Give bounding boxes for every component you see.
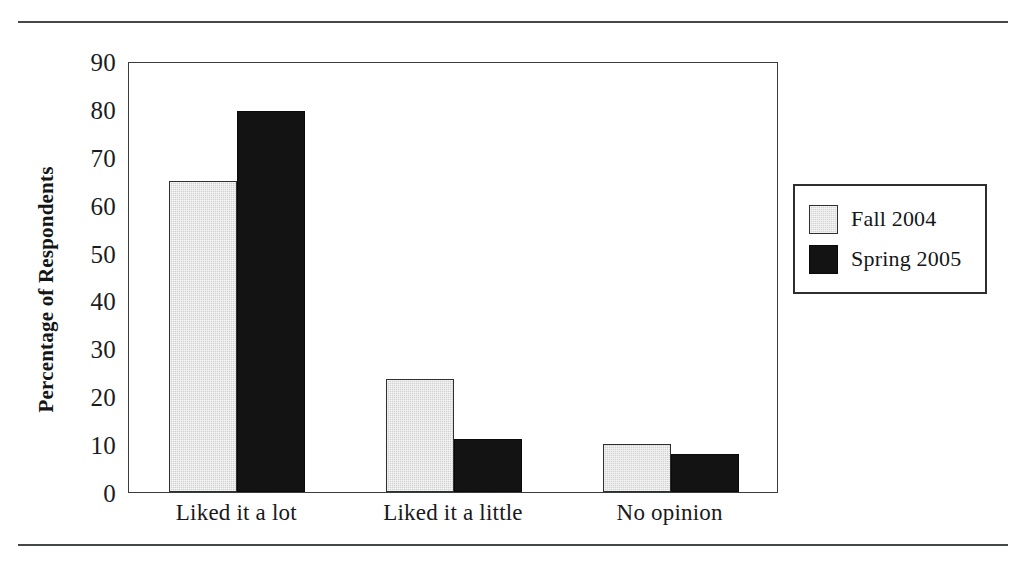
black-swatch-icon <box>809 245 838 274</box>
y-tick-label: 30 <box>90 337 116 362</box>
legend-label: Spring 2005 <box>851 246 961 272</box>
bar-fall-2004-liked-it-a-lot <box>169 181 237 492</box>
y-tick-label: 70 <box>90 145 116 170</box>
figure-bottom-rule <box>18 544 1008 546</box>
y-tick-label: 40 <box>90 289 116 314</box>
chart-legend[interactable]: Fall 2004Spring 2005 <box>793 184 987 294</box>
legend-item-spring-2005[interactable]: Spring 2005 <box>809 239 973 279</box>
x-axis-label: No opinion <box>617 500 723 526</box>
y-tick-label: 10 <box>90 433 116 458</box>
bar-spring-2005-no-opinion <box>671 454 739 492</box>
y-tick-label: 0 <box>103 481 116 506</box>
y-axis-title: Percentage of Respondents <box>34 165 59 415</box>
bar-spring-2005-liked-it-a-lot <box>237 111 305 492</box>
legend-item-fall-2004[interactable]: Fall 2004 <box>809 199 973 239</box>
figure-container: Percentage of Respondents 90807060504030… <box>0 0 1025 565</box>
x-axis-label: Liked it a little <box>383 500 522 526</box>
y-tick-label: 50 <box>90 241 116 266</box>
legend-label: Fall 2004 <box>851 206 937 232</box>
plot-area <box>128 62 778 493</box>
y-tick-label: 20 <box>90 385 116 410</box>
bar-fall-2004-no-opinion <box>603 444 671 492</box>
y-tick-label: 80 <box>90 97 116 122</box>
x-axis-label: Liked it a lot <box>176 500 297 526</box>
bar-fall-2004-liked-it-a-little <box>386 379 454 492</box>
bar-spring-2005-liked-it-a-little <box>454 439 522 492</box>
figure-top-rule <box>18 21 1008 23</box>
y-tick-label: 60 <box>90 193 116 218</box>
light-gray-swatch-icon <box>809 205 838 234</box>
y-axis-tick-labels: 9080706050403020100 <box>66 62 124 493</box>
y-tick-label: 90 <box>90 50 116 75</box>
